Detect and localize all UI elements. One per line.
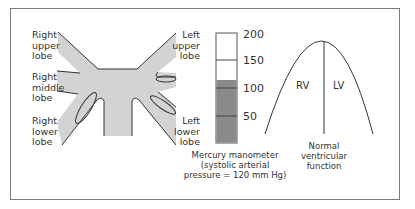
caption-line: Normal — [289, 141, 359, 151]
manometer-mercury — [217, 80, 237, 143]
label-line: lobe — [32, 51, 60, 62]
caption-line: pressure = 120 mm Hg) — [180, 170, 290, 180]
tick-100: 100 — [243, 83, 264, 95]
label-line: lobe — [32, 137, 58, 148]
caption-line: (systolic arterial — [180, 160, 290, 170]
label-right-lower-lobe: Right lower lobe — [32, 116, 58, 148]
label-rv: RV — [296, 81, 309, 92]
label-right-upper-lobe: Right upper lobe — [32, 30, 60, 62]
label-line: Right — [32, 30, 60, 41]
label-line: Right — [32, 72, 64, 83]
caption-line: Mercury manometer — [180, 150, 290, 160]
label-line: lobe — [170, 137, 200, 148]
label-line: lobe — [32, 93, 64, 104]
caption-line: ventricular — [289, 151, 359, 161]
label-left-lower-lobe: Left lower lobe — [170, 116, 200, 148]
ventricle-caption: Normal ventricular function — [289, 141, 359, 171]
label-line: Right — [32, 116, 58, 127]
label-line: Left — [172, 30, 200, 41]
caption-line: function — [289, 161, 359, 171]
label-lv: LV — [333, 81, 344, 92]
tick-50: 50 — [243, 111, 257, 123]
label-right-middle-lobe: Right middle lobe — [32, 72, 64, 104]
label-line: lobe — [172, 51, 200, 62]
manometer-caption: Mercury manometer (systolic arterial pre… — [180, 150, 290, 180]
label-left-upper-lobe: Left upper lobe — [172, 30, 200, 62]
label-line: Left — [170, 116, 200, 127]
tick-150: 150 — [243, 55, 264, 67]
tick-200: 200 — [243, 29, 264, 41]
ventricle-outline — [265, 41, 373, 134]
